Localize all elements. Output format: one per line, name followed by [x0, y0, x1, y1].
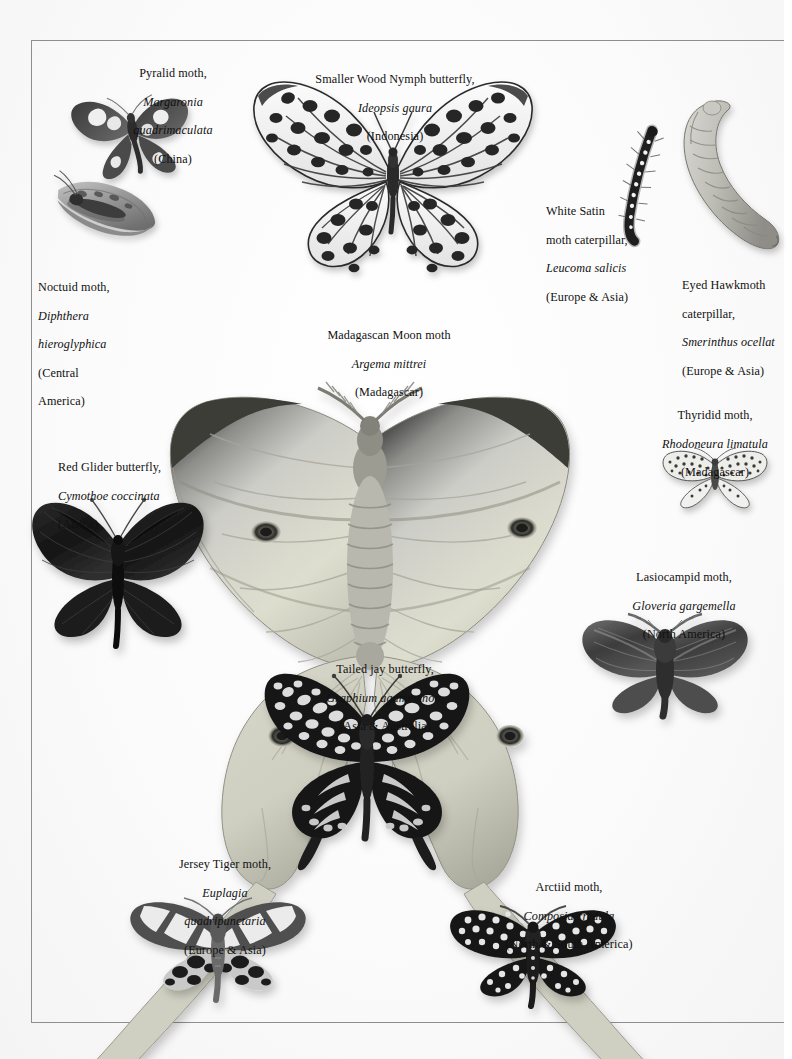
caption-common-name: Eyed Hawkmoth — [682, 278, 792, 292]
caption-madagascan-moon-moth: Madagascan Moon moth Argema mittrei (Mad… — [304, 314, 474, 414]
caption-common-name: Arctiid moth, — [478, 880, 660, 894]
caption-thyridid-moth: Thyridid moth, Rhodoneura limatula (Mada… — [650, 394, 780, 494]
caption-region: (Africa) — [58, 517, 196, 531]
caption-region: (China) — [108, 152, 238, 166]
caption-common-name: Jersey Tiger moth, — [157, 857, 293, 871]
caption-common-name-2: moth caterpillar, — [546, 233, 666, 247]
caption-common-name: White Satin — [546, 204, 666, 218]
caption-region: (North America) — [604, 627, 764, 641]
caption-genus: Cymothoe coccinata — [58, 489, 196, 503]
caption-common-name: Madagascan Moon moth — [304, 328, 474, 342]
caption-region: (Europe & Asia) — [157, 943, 293, 957]
caption-genus: Leucoma salicis — [546, 261, 666, 275]
caption-red-glider-butterfly: Red Glider butterfly, Cymothoe coccinata… — [58, 446, 196, 546]
caption-region: (North & South America) — [478, 937, 660, 951]
eyed-hawkmoth-caterpillar-specimen — [676, 96, 784, 268]
caption-genus: Smerinthus ocellat — [682, 335, 792, 349]
caption-species: quadripunctaria — [157, 914, 293, 928]
caption-common-name: Noctuid moth, — [38, 280, 150, 294]
noctuid-moth-specimen — [34, 170, 179, 255]
caption-genus: Argema mittrei — [304, 357, 474, 371]
caption-genus: Margaronia — [108, 95, 238, 109]
caption-genus: Diphthera — [38, 309, 150, 323]
caption-common-name-2: caterpillar, — [682, 307, 792, 321]
caption-common-name: Pyralid moth, — [108, 66, 238, 80]
caption-eyed-hawkmoth-caterpillar: Eyed Hawkmoth caterpillar, Smerinthus oc… — [682, 264, 792, 392]
caption-region: (Madagascar) — [650, 465, 780, 479]
caption-genus: Gloveria gargemella — [604, 599, 764, 613]
caption-genus: Rhodoneura limatula — [650, 437, 780, 451]
caption-genus: Ideopsis gaura — [280, 101, 510, 115]
caption-region: (Europe & Asia) — [546, 290, 666, 304]
caption-genus: Graphium agamemnon, — [300, 691, 470, 705]
caption-region: (Indonesia) — [280, 129, 510, 143]
caption-region: (Central — [38, 366, 150, 380]
caption-region: (Asia & Australia) — [300, 719, 470, 733]
caption-species: quadrimaculata — [108, 123, 238, 137]
caption-common-name: Red Glider butterfly, — [58, 460, 196, 474]
caption-arctiid-moth: Arctiid moth, Composia credula (North & … — [478, 866, 660, 966]
caption-region: (Europe & Asia) — [682, 364, 792, 378]
caption-region-2: America) — [38, 394, 150, 408]
caption-common-name: Thyridid moth, — [650, 408, 780, 422]
caption-common-name: Lasiocampid moth, — [604, 570, 764, 584]
caption-genus: Composia credula — [478, 909, 660, 923]
caption-species: hieroglyphica — [38, 337, 150, 351]
caption-white-satin-moth-caterpillar: White Satin moth caterpillar, Leucoma sa… — [546, 190, 666, 318]
caption-tailed-jay-butterfly: Tailed jay butterfly, Graphium agamemnon… — [300, 648, 470, 748]
caption-common-name: Tailed jay butterfly, — [300, 662, 470, 676]
caption-region: (Madagascar) — [304, 385, 474, 399]
caption-genus: Euplagia — [157, 886, 293, 900]
caption-common-name: Smaller Wood Nymph butterfly, — [280, 72, 510, 86]
caption-jersey-tiger-moth: Jersey Tiger moth, Euplagia quadripuncta… — [157, 843, 293, 971]
caption-smaller-wood-nymph-butterfly: Smaller Wood Nymph butterfly, Ideopsis g… — [280, 58, 510, 158]
caption-pyralid-moth: Pyralid moth, Margaronia quadrimaculata … — [108, 52, 238, 180]
caption-noctuid-moth: Noctuid moth, Diphthera hieroglyphica (C… — [38, 266, 150, 423]
caption-lasiocampid-moth: Lasiocampid moth, Gloveria gargemella (N… — [604, 556, 764, 656]
